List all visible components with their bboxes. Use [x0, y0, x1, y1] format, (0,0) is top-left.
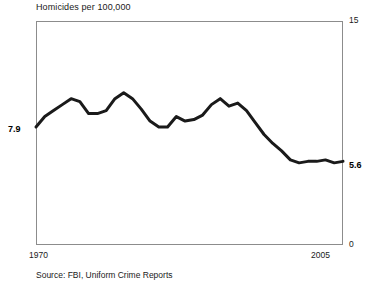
- homicide-rate-chart-figure: Homicides per 100,000 15 0 7.9 5.6 1970 …: [0, 0, 386, 292]
- y-axis-tick-min: 0: [349, 239, 354, 249]
- start-value-label: 7.9: [8, 124, 21, 134]
- end-value-label: 5.6: [349, 160, 362, 170]
- y-axis-tick-max: 15: [349, 15, 358, 25]
- x-axis-tick-end: 2005: [311, 250, 330, 260]
- chart-title: Homicides per 100,000: [36, 1, 131, 13]
- x-axis-tick-start: 1970: [29, 250, 48, 260]
- homicide-rate-line: [36, 93, 343, 163]
- source-note: Source: FBI, Uniform Crime Reports: [36, 270, 173, 281]
- plot-line-svg: [36, 21, 343, 245]
